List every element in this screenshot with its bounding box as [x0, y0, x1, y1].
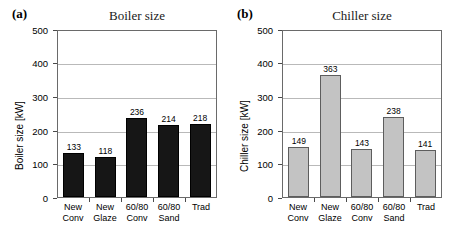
- panel-label-b: (b): [237, 6, 253, 22]
- x-label-boiler-3-line1: 60/80: [153, 202, 185, 213]
- x-label-chiller-1-line2: Glaze: [314, 213, 346, 224]
- x-label-boiler-4-line1: Trad: [185, 202, 217, 213]
- plot-area-chiller: 149 363 143 238 141: [282, 30, 442, 198]
- bar-boiler-6080-sand[interactable]: [158, 125, 179, 197]
- bar-slot-chiller-3: 238: [378, 31, 410, 197]
- y-tickmark-0-chiller: [278, 198, 282, 199]
- bar-value-boiler-1: 118: [99, 147, 113, 156]
- bar-value-chiller-0: 149: [292, 137, 306, 146]
- bars-layer-chiller: 149 363 143 238 141: [283, 31, 441, 197]
- bar-chiller-new-glaze[interactable]: [320, 75, 341, 197]
- y-tick-200-boiler: 200: [22, 127, 48, 137]
- y-tick-400-chiller: 400: [247, 59, 273, 69]
- bar-slot-boiler-1: 118: [90, 31, 122, 197]
- bar-boiler-new-conv[interactable]: [63, 153, 84, 197]
- bar-slot-chiller-1: 363: [315, 31, 347, 197]
- y-tick-200-chiller: 200: [247, 127, 273, 137]
- panel-label-a: (a): [12, 6, 27, 22]
- bar-chiller-6080-conv[interactable]: [351, 149, 372, 197]
- bar-boiler-new-glaze[interactable]: [95, 157, 116, 197]
- y-tick-300-chiller: 300: [247, 93, 273, 103]
- bar-slot-boiler-4: 218: [184, 31, 216, 197]
- y-tick-300-boiler: 300: [22, 93, 48, 103]
- x-axis-labels-boiler: New Conv New Glaze 60/80 Conv 60/80 Sand…: [57, 202, 217, 224]
- x-label-chiller-2-line2: Conv: [346, 213, 378, 224]
- bar-value-boiler-3: 214: [161, 115, 175, 124]
- bar-value-boiler-2: 236: [130, 108, 144, 117]
- bar-value-chiller-2: 143: [355, 139, 369, 148]
- x-label-chiller-4: Trad: [410, 202, 442, 224]
- x-label-chiller-3: 60/80 Sand: [378, 202, 410, 224]
- x-label-boiler-2-line1: 60/80: [121, 202, 153, 213]
- bar-boiler-6080-conv[interactable]: [126, 118, 147, 197]
- bar-value-chiller-1: 363: [323, 65, 337, 74]
- x-axis-labels-chiller: New Conv New Glaze 60/80 Conv 60/80 Sand…: [282, 202, 442, 224]
- y-tick-100-chiller: 100: [247, 160, 273, 170]
- bar-slot-boiler-3: 214: [153, 31, 185, 197]
- y-tick-400-boiler: 400: [22, 59, 48, 69]
- x-label-chiller-1: New Glaze: [314, 202, 346, 224]
- bar-boiler-trad[interactable]: [190, 124, 211, 197]
- bar-value-boiler-4: 218: [193, 114, 207, 123]
- y-tick-0-boiler: 0: [22, 194, 48, 204]
- x-label-chiller-1-line1: New: [314, 202, 346, 213]
- x-label-chiller-3-line2: Sand: [378, 213, 410, 224]
- bar-slot-boiler-0: 133: [58, 31, 90, 197]
- y-tickmark-0-boiler: [53, 198, 57, 199]
- x-label-chiller-3-line1: 60/80: [378, 202, 410, 213]
- x-label-chiller-0-line2: Conv: [282, 213, 314, 224]
- x-label-chiller-0: New Conv: [282, 202, 314, 224]
- x-label-boiler-3: 60/80 Sand: [153, 202, 185, 224]
- x-label-chiller-4-line1: Trad: [410, 202, 442, 213]
- panel-boiler: (a) Boiler size Boiler size [kW] 500 400…: [0, 0, 225, 242]
- x-label-chiller-2: 60/80 Conv: [346, 202, 378, 224]
- chart-title-boiler: Boiler size: [57, 8, 217, 24]
- chart-title-chiller: Chiller size: [282, 8, 442, 24]
- x-label-chiller-2-line1: 60/80: [346, 202, 378, 213]
- y-tick-500-boiler: 500: [22, 26, 48, 36]
- bar-value-boiler-0: 133: [67, 143, 81, 152]
- bar-slot-chiller-2: 143: [346, 31, 378, 197]
- y-tick-500-chiller: 500: [247, 26, 273, 36]
- bar-value-chiller-3: 238: [386, 107, 400, 116]
- bar-chiller-6080-sand[interactable]: [383, 117, 404, 197]
- x-label-chiller-0-line1: New: [282, 202, 314, 213]
- figure-container: (a) Boiler size Boiler size [kW] 500 400…: [0, 0, 450, 242]
- plot-area-boiler: 133 118 236 214 218: [57, 30, 217, 198]
- y-tick-0-chiller: 0: [247, 194, 273, 204]
- bar-slot-chiller-0: 149: [283, 31, 315, 197]
- bar-chiller-trad[interactable]: [415, 150, 436, 197]
- x-label-boiler-2-line2: Conv: [121, 213, 153, 224]
- x-label-boiler-1-line1: New: [89, 202, 121, 213]
- x-label-boiler-2: 60/80 Conv: [121, 202, 153, 224]
- bar-slot-boiler-2: 236: [121, 31, 153, 197]
- x-label-boiler-1-line2: Glaze: [89, 213, 121, 224]
- bar-value-chiller-4: 141: [418, 140, 432, 149]
- bar-slot-chiller-4: 141: [409, 31, 441, 197]
- x-label-boiler-3-line2: Sand: [153, 213, 185, 224]
- panel-chiller: (b) Chiller size Chiller size [kW] 500 4…: [225, 0, 450, 242]
- x-label-boiler-0: New Conv: [57, 202, 89, 224]
- bars-layer-boiler: 133 118 236 214 218: [58, 31, 216, 197]
- x-label-boiler-1: New Glaze: [89, 202, 121, 224]
- x-label-boiler-4: Trad: [185, 202, 217, 224]
- x-label-boiler-0-line2: Conv: [57, 213, 89, 224]
- y-tick-100-boiler: 100: [22, 160, 48, 170]
- bar-chiller-new-conv[interactable]: [288, 147, 309, 197]
- x-label-boiler-0-line1: New: [57, 202, 89, 213]
